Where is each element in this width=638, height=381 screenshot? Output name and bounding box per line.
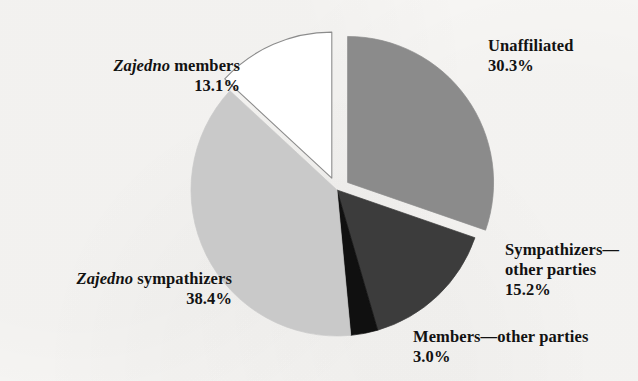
label-zajedno-sympathizers-value: 38.4%: [76, 289, 232, 309]
label-unaffiliated-value: 30.3%: [488, 56, 574, 76]
label-members-other-parties-value: 3.0%: [413, 347, 588, 367]
label-zajedno-members-value: 13.1%: [113, 76, 240, 96]
label-zajedno-sympathizers: Zajedno sympathizers 38.4%: [76, 269, 232, 309]
label-zajedno-sympathizers-emphasis: Zajedno: [76, 269, 133, 288]
label-zajedno-members-rest: members: [170, 56, 240, 75]
label-zajedno-members-emphasis: Zajedno: [113, 56, 170, 75]
label-unaffiliated-name: Unaffiliated: [488, 36, 574, 56]
label-members-other-parties: Members—other parties 3.0%: [413, 327, 588, 367]
label-members-other-parties-line1: Members—other parties: [413, 327, 588, 347]
label-sympathizers-other-parties-value: 15.2%: [505, 280, 619, 300]
label-sympathizers-other-parties-line2: other parties: [505, 260, 619, 280]
label-zajedno-members: Zajedno members 13.1%: [113, 56, 240, 96]
chart-page: Zajedno members 13.1% Zajedno sympathize…: [0, 0, 638, 381]
label-unaffiliated: Unaffiliated 30.3%: [488, 36, 574, 76]
label-zajedno-sympathizers-name: Zajedno sympathizers: [76, 269, 232, 289]
label-zajedno-members-name: Zajedno members: [113, 56, 240, 76]
label-sympathizers-other-parties-line1: Sympathizers—: [505, 240, 619, 260]
label-sympathizers-other-parties: Sympathizers— other parties 15.2%: [505, 240, 619, 300]
label-zajedno-sympathizers-rest: sympathizers: [133, 269, 232, 288]
